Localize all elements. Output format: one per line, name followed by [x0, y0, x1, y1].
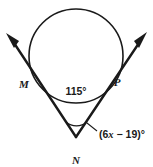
geometry-figure: M P N 115° (6x − 19)° — [0, 0, 153, 167]
vertex-label-n: N — [71, 154, 81, 166]
angle-expression-label: (6x − 19)° — [99, 128, 145, 140]
vertex-label-p: P — [114, 76, 121, 88]
angle-expr-open: (6 — [99, 128, 108, 140]
angle-expr-close: − 19)° — [114, 128, 145, 140]
vertex-label-m: M — [18, 78, 30, 90]
geometry-canvas: M P N 115° (6x − 19)° — [0, 0, 153, 167]
arc-measure-label: 115° — [65, 85, 86, 97]
angle-leader-line — [87, 123, 97, 131]
